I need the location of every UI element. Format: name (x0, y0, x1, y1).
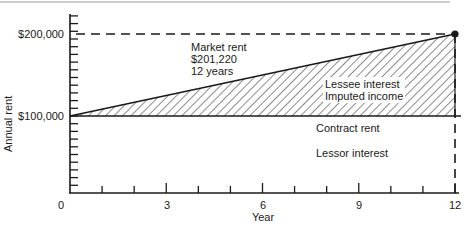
x-tick-label-6: 6 (253, 199, 273, 211)
x-tick-label-9: 9 (349, 199, 369, 211)
lessee-interest-label: Lessee interest (325, 78, 403, 90)
chart-canvas (0, 0, 470, 227)
x-tick-label-12: 12 (445, 199, 465, 211)
y-axis-label: Annual rent (2, 96, 14, 152)
lessor-interest-label: Lessor interest (316, 147, 388, 159)
market-rent-endpoint-marker (451, 30, 458, 37)
market-rent-annotation: Market rent $201,220 12 years (191, 41, 247, 77)
market-rent-annotation-value: $201,220 (191, 53, 247, 65)
imputed-income-label: Imputed income (325, 90, 403, 102)
lessee-interest-annotation: Lessee interest Imputed income (323, 77, 405, 103)
x-tick-label-3: 3 (157, 199, 177, 211)
y-tick-label-200000: $200,000 (0, 28, 64, 40)
y-axis (70, 14, 78, 193)
contract-rent-label: Contract rent (316, 122, 380, 134)
x-tick-label-0: 0 (51, 199, 71, 211)
x-axis (69, 183, 459, 193)
market-rent-annotation-title: Market rent (191, 41, 247, 53)
x-axis-label: Year (248, 211, 278, 223)
market-rent-annotation-term: 12 years (191, 65, 247, 77)
chart-figure: $200,000 $100,000 Annual rent 0 3 6 9 12… (0, 0, 470, 227)
